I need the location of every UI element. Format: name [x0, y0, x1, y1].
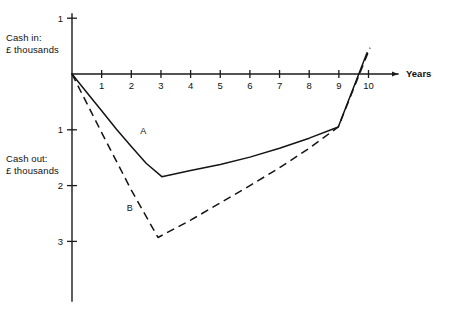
x-tick-label: 8 — [307, 80, 312, 91]
series-line-b — [72, 48, 370, 238]
data-series-group — [72, 48, 370, 238]
series-line-a — [72, 53, 367, 177]
series-label-b: B — [127, 203, 133, 213]
x-axis-arrow-icon — [392, 71, 398, 76]
x-tick-label: 4 — [188, 80, 193, 91]
axes-group — [72, 14, 398, 301]
y-tick-label: 1 — [58, 13, 63, 24]
series-inline-labels: AB — [127, 126, 146, 214]
x-tick-label: 7 — [277, 80, 282, 91]
y-tick-label: 2 — [58, 180, 63, 191]
x-tick-label: 9 — [336, 80, 341, 91]
y-tick-label: 1 — [58, 124, 63, 135]
x-tick-label: 2 — [129, 80, 134, 91]
chart-plot-area: 12345678910 1123 AB Years — [0, 0, 450, 327]
x-tick-label: 10 — [363, 80, 374, 91]
x-axis-ticks: 12345678910 — [99, 70, 374, 91]
x-tick-label: 5 — [218, 80, 223, 91]
series-label-a: A — [140, 126, 146, 136]
y-axis-ticks: 1123 — [58, 13, 77, 247]
y-tick-label: 3 — [58, 236, 63, 247]
cash-flow-chart: Cash in: £ thousands Cash out: £ thousan… — [0, 0, 450, 327]
x-tick-label: 1 — [99, 80, 104, 91]
x-axis-title: Years — [406, 68, 431, 79]
x-tick-label: 3 — [158, 80, 163, 91]
x-tick-label: 6 — [247, 80, 252, 91]
